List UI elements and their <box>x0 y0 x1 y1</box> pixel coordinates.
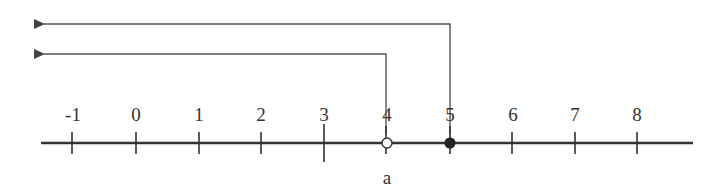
number-line-diagram: -1 0 1 2 3 4 5 6 7 8 a <box>0 0 728 196</box>
arrow-from-4-path <box>44 54 386 134</box>
tick-label-2: 2 <box>256 104 266 125</box>
closed-point-5 <box>445 138 455 148</box>
tick-label-6: 6 <box>508 104 518 125</box>
tick-label-3: 3 <box>319 104 329 125</box>
tick-label-7: 7 <box>570 104 580 125</box>
tick-label-8: 8 <box>632 104 642 125</box>
arrow-from-4 <box>44 54 386 134</box>
tick-label-1: 1 <box>194 104 204 125</box>
tick-labels: -1 0 1 2 3 4 5 6 7 8 <box>65 104 642 125</box>
variable-label-a: a <box>383 167 392 188</box>
tick-label--1: -1 <box>65 104 81 125</box>
open-point-4 <box>382 138 392 148</box>
tick-label-0: 0 <box>131 104 141 125</box>
tick-label-4: 4 <box>382 104 392 125</box>
tick-label-5: 5 <box>445 104 455 125</box>
